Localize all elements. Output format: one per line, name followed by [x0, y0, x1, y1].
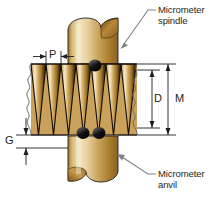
micrometer-spindle — [68, 18, 118, 64]
dimension-label-m: M — [175, 93, 184, 104]
callout-spindle-line1: Micrometer — [158, 4, 205, 15]
dimension-label-p: P — [49, 49, 56, 60]
contact-ball-top — [89, 60, 102, 72]
dimension-label-d: D — [154, 93, 162, 104]
threaded-screw — [27, 64, 137, 135]
callout-anvil-line1: Micrometer — [158, 168, 205, 179]
callout-anvil-line2: anvil — [158, 179, 205, 190]
contact-ball-bottom-left — [77, 127, 90, 139]
callout-spindle-line2: spindle — [158, 15, 205, 26]
contact-ball-bottom-right — [93, 127, 106, 139]
micrometer-thread-diagram: Micrometer spindle Micrometer anvil P D … — [0, 0, 220, 201]
callout-spindle: Micrometer spindle — [158, 4, 205, 26]
callout-anvil: Micrometer anvil — [158, 168, 205, 190]
micrometer-anvil — [68, 136, 118, 182]
dimension-label-g: G — [5, 135, 14, 146]
